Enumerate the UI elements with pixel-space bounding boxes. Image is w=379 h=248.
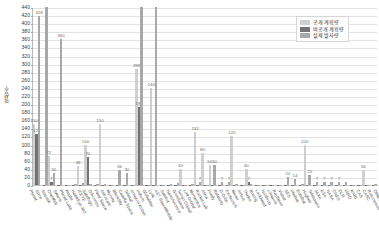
- legend-item[interactable]: 비공개 계획량: [300, 27, 344, 32]
- y-tick-label: 260: [22, 78, 31, 83]
- bar-group: 360: [55, 8, 62, 185]
- bar-value-label: 48: [76, 161, 81, 165]
- bar-group: 120: [230, 8, 237, 185]
- bar: 50: [209, 165, 211, 185]
- bar-group: 407: [245, 8, 252, 185]
- y-tick-label: 60: [24, 159, 30, 164]
- bar-group: [172, 8, 179, 185]
- y-tick-label: 180: [22, 111, 31, 116]
- bar-value-label: 7: [247, 177, 249, 181]
- chart-legend: 공개 계획량비공개 계획량실제 발사량: [296, 16, 349, 42]
- bar-group: 5050: [209, 8, 216, 185]
- bar: 80: [201, 153, 203, 185]
- bar-group: 150: [99, 8, 106, 185]
- bar-group: [267, 8, 274, 185]
- bar-group: 7: [223, 8, 230, 185]
- legend-label: 비공개 계획량: [313, 27, 344, 32]
- bar-group: 288192: [135, 8, 142, 185]
- y-tick-label: 300: [22, 62, 31, 67]
- bar: 72: [48, 156, 50, 185]
- bar: 100: [304, 145, 306, 185]
- bar: 120: [230, 136, 232, 185]
- bar-value-label: 40: [244, 164, 249, 168]
- bar-value-label: 72: [46, 151, 51, 155]
- bar-value-label: 40: [178, 164, 183, 168]
- bar-group: [128, 8, 135, 185]
- legend-swatch-icon: [300, 33, 310, 38]
- bar: 36: [362, 170, 364, 185]
- bar: 150: [99, 124, 101, 185]
- bar-group: [165, 8, 172, 185]
- axis-tickmark: [31, 186, 34, 187]
- bar: 70: [87, 157, 89, 185]
- legend-item[interactable]: 실제 발사량: [300, 33, 344, 38]
- x-axis-labels: PlanetSpireSpaceXOneWebSwarmPlanet LabsK…: [32, 188, 377, 248]
- y-tick-label: 360: [22, 38, 31, 43]
- bar-group: 40: [179, 8, 186, 185]
- bar-group: [355, 8, 362, 185]
- legend-label: 공개 계획량: [313, 20, 339, 25]
- y-tick-label: 320: [22, 54, 31, 59]
- y-tick-label: 380: [22, 30, 31, 35]
- bar-group: 7: [216, 8, 223, 185]
- bar-group: [40, 8, 47, 185]
- y-tick-label: 220: [22, 94, 31, 99]
- y-tick-label: 280: [22, 70, 31, 75]
- bar-group: 72730: [48, 8, 55, 185]
- y-tick-label: 200: [22, 103, 31, 108]
- bar-group: [187, 8, 194, 185]
- legend-label: 실제 발사량: [313, 33, 339, 38]
- bar-value-label: 50: [207, 160, 212, 164]
- bar: 48: [77, 166, 79, 185]
- bar-group: [70, 8, 77, 185]
- y-tick-label: 160: [22, 119, 31, 124]
- bar-group: 36: [362, 8, 369, 185]
- bar-group: [143, 8, 150, 185]
- bar-group: 1327: [194, 8, 201, 185]
- y-tick-label: 20: [24, 175, 30, 180]
- bar-group: 240: [150, 8, 157, 185]
- legend-item[interactable]: 공개 계획량: [300, 20, 344, 25]
- bar-group: [62, 8, 69, 185]
- y-axis-ticks: 0204060801001201401601802002202402602803…: [11, 8, 31, 186]
- bar-group: [252, 8, 259, 185]
- bar: 240: [150, 88, 152, 185]
- bar-group: [238, 8, 245, 185]
- y-tick-label: 120: [22, 135, 31, 140]
- legend-swatch-icon: [300, 27, 310, 32]
- bar-group: 30: [121, 8, 128, 185]
- bar-group: 80: [201, 8, 208, 185]
- bar-group: 10070: [84, 8, 91, 185]
- bar-value-label: 150: [31, 119, 38, 123]
- bar-chart: 위성 수 02040608010012014016018020022024026…: [0, 0, 379, 248]
- bar-group: 48: [77, 8, 84, 185]
- y-axis-title-text: 위성 수: [3, 87, 10, 103]
- bar-group: [106, 8, 113, 185]
- y-tick-label: 40: [24, 167, 30, 172]
- bar-group: [274, 8, 281, 185]
- y-tick-label: 80: [24, 151, 30, 156]
- bar: 40: [179, 169, 181, 185]
- y-tick-label: 0: [27, 183, 30, 188]
- bar-group: [157, 8, 164, 185]
- y-tick-label: 420: [22, 14, 31, 19]
- bar-group: 20: [282, 8, 289, 185]
- y-tick-label: 440: [22, 5, 31, 10]
- y-tick-label: 340: [22, 46, 31, 51]
- y-tick-label: 400: [22, 22, 31, 27]
- bar-group: [369, 8, 376, 185]
- y-tick-label: 240: [22, 86, 31, 91]
- legend-swatch-icon: [300, 20, 310, 25]
- bar-group: 36: [113, 8, 120, 185]
- bar-group: [260, 8, 267, 185]
- bar: 132: [194, 132, 196, 185]
- y-tick-label: 100: [22, 143, 31, 148]
- bar-value-label: 80: [200, 148, 205, 152]
- bar-group: [92, 8, 99, 185]
- bar-value-label: 36: [361, 165, 366, 169]
- y-tick-label: 140: [22, 127, 31, 132]
- bar-group: 150127418: [33, 8, 40, 185]
